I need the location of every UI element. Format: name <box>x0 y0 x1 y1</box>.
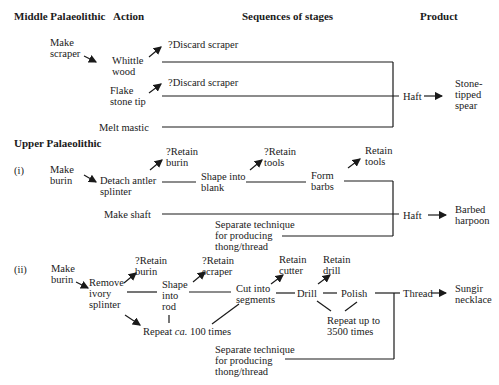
arrow-retain-tools-q <box>250 160 262 170</box>
node-retain-burin-i: ?Retain burin <box>166 146 198 168</box>
arrow-retain-tools <box>348 159 360 168</box>
node-retain-burin-ii: ?Retain burin <box>135 255 167 277</box>
product-stone-tipped-spear: Stone- tipped spear <box>455 78 482 111</box>
repeat-100-prefix: Repeat <box>143 326 175 337</box>
line-polish-repeat <box>345 302 357 311</box>
node-remove-ivory-splinter: Remove ivory splinter <box>89 277 124 310</box>
line-drill-repeat <box>317 301 331 311</box>
node-make-shaft: Make shaft <box>104 209 151 220</box>
node-discard-scraper-1: ?Discard scraper <box>168 39 238 50</box>
node-polish: Polish <box>341 288 367 299</box>
arrow-remove-repeat <box>125 315 140 325</box>
product-sungir-necklace: Sungir necklace <box>455 283 492 305</box>
node-make-burin-i: Make burin <box>50 164 74 186</box>
node-shape-into-blank: Shape into blank <box>201 171 246 193</box>
node-haft-upper: Haft <box>403 210 422 221</box>
node-drill: Drill <box>297 288 317 299</box>
header-sequences: Sequences of stages <box>242 11 333 22</box>
operational-sequence-diagram: Middle Palaeolithic Action Sequences of … <box>0 0 499 385</box>
node-separate-technique-i: Separate technique for producing thong/t… <box>215 219 295 252</box>
node-thread: Thread <box>403 288 433 299</box>
node-retain-tools: Retain tools <box>365 145 392 167</box>
label-sequence-ii: (ii) <box>14 264 27 275</box>
header-middle-palaeolithic: Middle Palaeolithic <box>14 11 105 22</box>
node-repeat-100-times: Repeat ca. 100 times <box>143 326 231 337</box>
node-retain-drill: Retain drill <box>323 254 350 276</box>
header-upper-palaeolithic: Upper Palaeolithic <box>14 138 101 149</box>
header-action: Action <box>113 11 144 22</box>
repeat-100-suffix: 100 times <box>187 326 231 337</box>
arrow-discard-2 <box>149 84 161 93</box>
arrow-make-scraper <box>84 56 96 62</box>
repeat-100-ca: ca. <box>175 326 188 337</box>
node-retain-scraper: ?Retain scraper <box>202 255 234 277</box>
arrow-discard-1 <box>149 47 161 57</box>
node-whittle-wood: Whittle wood <box>112 55 144 77</box>
product-barbed-harpoon: Barbed harpoon <box>455 204 489 226</box>
arrow-retain-burin-i <box>150 160 162 170</box>
node-haft-middle: Haft <box>403 91 422 102</box>
node-retain-tools-q: ?Retain tools <box>264 146 296 168</box>
node-separate-technique-ii: Separate technique for producing thong/t… <box>215 344 295 377</box>
node-flake-stone-tip: Flake stone tip <box>110 85 146 107</box>
arrow-retain-drill <box>318 275 330 284</box>
arrow-make-burin-i <box>84 175 96 182</box>
node-cut-into-segments: Cut into segments <box>236 283 275 305</box>
line-repeat-cut <box>212 304 239 324</box>
node-make-scraper: Make scraper <box>50 37 80 59</box>
node-shape-into-rod: Shape into rod <box>162 279 188 312</box>
arrow-make-burin-ii <box>76 282 88 288</box>
node-retain-cutter: Retain cutter <box>279 254 306 276</box>
header-product: Product <box>420 11 458 22</box>
label-sequence-i: (i) <box>14 165 24 176</box>
node-make-burin-ii: Make burin <box>51 263 75 285</box>
node-form-barbs: Form barbs <box>311 170 334 192</box>
node-discard-scraper-2: ?Discard scraper <box>168 77 238 88</box>
node-repeat-3500-times: Repeat up to 3500 times <box>327 315 380 337</box>
node-detach-antler-splinter: Detach antler splinter <box>100 175 156 197</box>
node-melt-mastic: Melt mastic <box>99 122 149 133</box>
